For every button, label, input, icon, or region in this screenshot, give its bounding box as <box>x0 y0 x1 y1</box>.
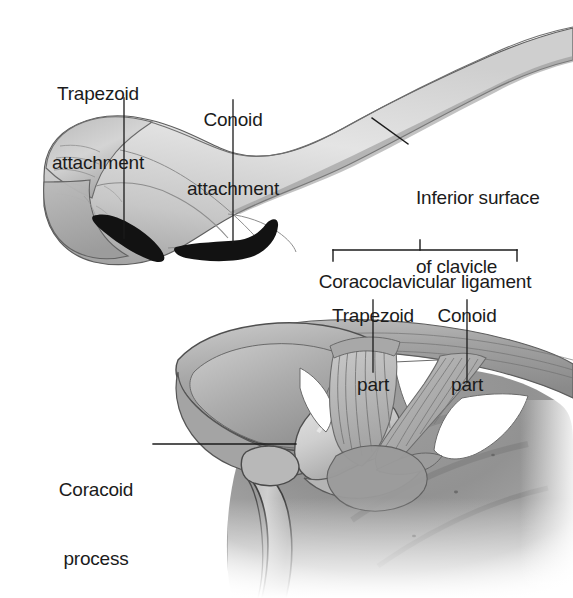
label-conoid-part-line1: Conoid <box>415 304 519 327</box>
label-conoid-part: Conoid part <box>415 258 519 442</box>
right-fade-mask <box>520 400 573 598</box>
label-inferior-surface-line1: Inferior surface <box>416 186 566 209</box>
label-conoid-attachment-line2: attachment <box>171 177 295 200</box>
anatomy-figure: Trapezoid attachment Conoid attachment I… <box>0 0 573 598</box>
label-conoid-attachment-line1: Conoid <box>171 108 295 131</box>
label-coracoid-process: Coracoid process <box>40 432 152 598</box>
label-trapezoid-attachment-line2: attachment <box>36 151 160 174</box>
label-conoid-attachment: Conoid attachment <box>171 62 295 246</box>
rib-costal-head <box>241 446 299 486</box>
label-coracoid-process-line2: process <box>40 547 152 570</box>
label-trapezoid-attachment: Trapezoid attachment <box>36 36 160 220</box>
label-trapezoid-attachment-line1: Trapezoid <box>36 82 160 105</box>
label-coracoid-process-line1: Coracoid <box>40 478 152 501</box>
label-conoid-part-line2: part <box>415 373 519 396</box>
